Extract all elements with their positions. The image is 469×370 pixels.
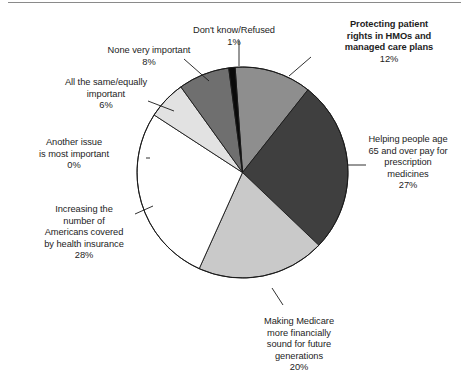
leader-line-making-medicare [272,288,283,305]
slice-label-making-medicare: Making Medicare more financially sound f… [238,305,360,370]
slice-percent-text: 20% [238,362,360,370]
slice-label-another-issue: Another issue is most important 0% [6,126,142,183]
slice-percent-text: 27% [350,180,466,191]
slice-percent-text: 0% [6,160,142,171]
slice-label-all-the-same: All the same/equally important 6% [36,66,176,123]
slice-percent-text: 28% [16,250,152,261]
pie-chart-figure: Protecting patient rights in HMOs and ma… [0,0,469,370]
leader-line-protecting-patient-rights [289,57,311,76]
slice-label-text: Another issue is most important [39,137,109,158]
slice-label-helping-people-age-65: Helping people age 65 and over pay for p… [350,123,466,203]
slice-label-text: Helping people age 65 and over pay for p… [368,134,447,178]
slice-label-protecting-patient-rights: Protecting patient rights in HMOs and ma… [318,8,460,76]
slice-percent-text: 12% [318,54,460,65]
slice-percent-text: 6% [36,100,176,111]
slice-label-text: All the same/equally important [65,77,147,98]
slice-label-text: Making Medicare more financially sound f… [264,316,334,360]
slice-label-text: Protecting patient rights in HMOs and ma… [345,19,434,52]
slice-label-text: None very important [108,45,191,55]
slice-label-text: Increasing the number of Americans cover… [44,204,124,248]
slice-label-increasing-coverage: Increasing the number of Americans cover… [16,193,152,273]
